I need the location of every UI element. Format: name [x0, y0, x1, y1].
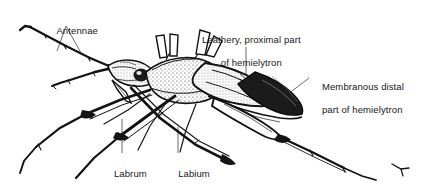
- label-leathery-line1: Leathery, proximal part: [202, 34, 301, 45]
- label-antennae-line1: Antennae: [56, 25, 97, 36]
- label-membranous-line1: Membranous distal: [322, 81, 404, 92]
- label-membranous-line2: part of hemielytron: [322, 104, 403, 115]
- label-labrum-line1: Labrum: [114, 168, 147, 179]
- label-labium-proboscis: Labium (proboscis): [159, 156, 218, 187]
- insect-anatomy-figure: Antennae Leathery, proximal part of hemi…: [0, 0, 425, 187]
- label-leathery-proximal-hemielytron: Leathery, proximal part of hemielytron: [191, 22, 301, 80]
- label-labium-line1: Labium: [178, 168, 210, 179]
- label-leathery-line2: of hemielytron: [221, 57, 282, 68]
- label-antennae: Antennae: [46, 13, 98, 48]
- label-membranous-distal-hemielytron: Membranous distal part of hemielytron: [311, 69, 404, 127]
- label-labrum: Labrum: [103, 156, 147, 187]
